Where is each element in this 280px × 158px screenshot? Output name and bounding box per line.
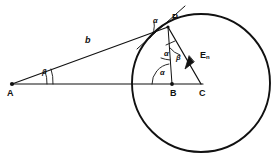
angle-arc-beta-a-outer [51, 69, 53, 84]
vector-label-en: En [200, 51, 210, 60]
angle-label-alpha-p: α [153, 17, 158, 25]
point-label-p: P [172, 13, 178, 22]
perpendicular-tick [166, 41, 175, 45]
vector-en-shaft [168, 27, 201, 84]
segment-label-b: b [85, 36, 91, 45]
point-label-a: A [7, 89, 14, 98]
point-label-b: B [170, 89, 177, 98]
vector-label-en-subscript: n [206, 54, 210, 60]
diagram-canvas [0, 0, 280, 158]
point-marker-a [10, 82, 14, 86]
angle-label-alpha-upper: α [164, 50, 169, 58]
angle-label-beta-middle: β [176, 54, 181, 62]
geometry-diagram: A B C P b En β α α β α [0, 0, 280, 158]
point-marker-b [170, 82, 174, 86]
point-label-c: C [199, 89, 206, 98]
point-marker-p [166, 25, 169, 28]
angle-label-alpha-b: α [160, 69, 165, 77]
angle-arc-alpha-upper [161, 58, 170, 60]
angle-label-beta-a: β [42, 68, 47, 76]
